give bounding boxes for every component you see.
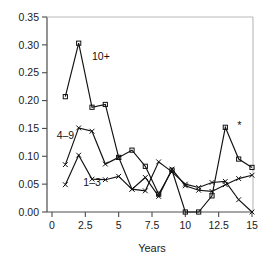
annotations-group: * (237, 119, 242, 131)
x-tick-label: 2.5 (78, 219, 93, 231)
x-tick-label: 15 (246, 219, 258, 231)
x-tick-label: 5 (116, 219, 122, 231)
y-tick-label: 0.20 (19, 94, 40, 106)
series-label-13: 1–3 (83, 176, 101, 188)
y-tick-label: 0.05 (19, 178, 40, 190)
data-point-marker (223, 182, 228, 187)
y-tick-label: 0.00 (19, 206, 40, 218)
series-label-10+: 10+ (92, 50, 110, 62)
y-tick-label: 0.35 (19, 11, 40, 23)
y-tick-label: 0.25 (19, 66, 40, 78)
chart-container: 0.000.050.100.150.200.250.300.3502.557.5… (0, 0, 276, 263)
x-tick-label: 0 (49, 219, 55, 231)
y-tick-label: 0.15 (19, 122, 40, 134)
y-tick-label: 0.30 (19, 39, 40, 51)
data-point-marker (236, 197, 241, 202)
data-point-marker (103, 162, 108, 167)
series-line-49 (65, 128, 252, 212)
data-point-marker (63, 182, 68, 187)
axis-tick-labels: 0.000.050.100.150.200.250.300.3502.557.5… (19, 11, 258, 231)
x-tick-label: 7.5 (145, 219, 160, 231)
x-axis-title: Years (138, 242, 166, 254)
asterisk-annotation: * (237, 119, 242, 131)
data-point-marker (76, 153, 81, 158)
x-tick-label: 12.5 (208, 219, 229, 231)
line-chart: 0.000.050.100.150.200.250.300.3502.557.5… (0, 0, 276, 263)
data-point-marker (156, 159, 161, 164)
series-label-49: 4–9 (57, 129, 75, 141)
data-point-marker (143, 175, 148, 180)
y-tick-label: 0.10 (19, 150, 40, 162)
x-tick-label: 10 (179, 219, 191, 231)
series-labels-group: 10+4–91–3 (57, 50, 110, 187)
